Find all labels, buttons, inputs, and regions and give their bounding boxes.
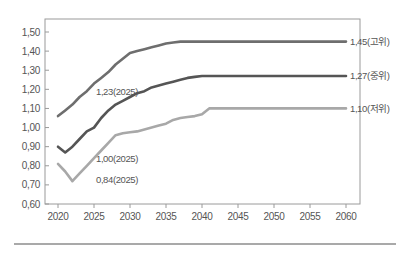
plot-frame [45,19,360,204]
x-tick-label: 2030 [119,211,141,222]
x-tick-label: 2035 [155,211,177,222]
x-tick-label: 2025 [83,211,105,222]
y-tick-label: 1,20 [22,84,41,95]
x-tick-label: 2020 [47,211,69,222]
x-tick-label: 2045 [227,211,249,222]
end-label-medium: 1,27(중위) [350,70,390,81]
y-tick-label: 0,70 [22,179,41,190]
y-tick-label: 1,30 [22,65,41,76]
x-tick-label: 2050 [263,211,285,222]
plot-area-border [45,19,360,204]
x-axis: 202020252030203520402045205020552060 [47,204,357,222]
x-tick-label: 2060 [335,211,357,222]
y-tick-label: 0,60 [22,199,41,210]
annotation-2025-high: 1,23(2025) [96,86,138,97]
annotation-2025-low: 0,84(2025) [96,174,138,185]
y-tick-label: 1,50 [22,27,41,38]
x-tick-label: 2040 [191,211,213,222]
y-tick-label: 0,90 [22,141,41,152]
y-tick-label: 1,10 [22,103,41,114]
x-tick-label: 2055 [299,211,321,222]
series-labels: 1,45(고위)1,23(2025)1,27(중위)1,00(2025)1,10… [96,36,390,185]
annotation-2025-medium: 1,00(2025) [96,153,138,164]
series-line-high [58,42,346,117]
end-label-low: 1,10(저위) [350,103,390,114]
end-label-high: 1,45(고위) [350,36,390,47]
tfr-projection-chart: 0,600,700,800,901,001,101,201,301,401,50… [0,0,411,254]
y-tick-label: 1,40 [22,46,41,57]
y-tick-label: 0,80 [22,160,41,171]
y-tick-label: 1,00 [22,122,41,133]
